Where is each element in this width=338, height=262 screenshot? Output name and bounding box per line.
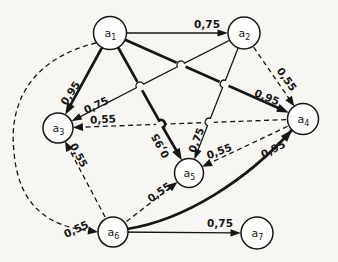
node-a4: a4	[288, 104, 319, 135]
node-a3: a3	[43, 113, 73, 143]
node-a6: a6	[98, 217, 128, 247]
edge-weight-a1-a2: 0,75	[194, 18, 220, 30]
edge-weight-a6-a7: 0,75	[207, 217, 233, 229]
node-a7: a7	[241, 217, 273, 249]
node-a2: a2	[228, 17, 260, 49]
node-a1: a1	[94, 17, 127, 50]
edge-weight-a4-a3: 0,55	[90, 112, 117, 125]
graph-figure: 0,950,550,950,750,750,750,950,550,550,55…	[0, 0, 338, 262]
node-a5: a5	[175, 159, 204, 188]
graph-svg: 0,950,550,950,750,750,750,950,550,550,55…	[0, 0, 338, 262]
edge-line	[113, 232, 234, 233]
